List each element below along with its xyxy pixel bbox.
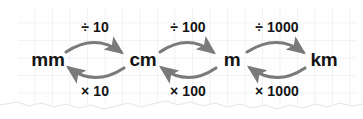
arrow-m-to-km-divide xyxy=(247,43,303,53)
multiply-label-km-m: × 1000 xyxy=(255,83,299,99)
divide-label-m-km: ÷ 1000 xyxy=(255,19,298,35)
arrow-mm-to-cm-divide xyxy=(66,43,121,53)
multiply-label-cm-mm: × 10 xyxy=(81,83,109,99)
arrow-cm-to-mm-multiply xyxy=(69,68,124,78)
arrow-m-to-cm-multiply xyxy=(162,68,216,78)
unit-label-mm: mm xyxy=(31,49,64,71)
unit-label-cm: cm xyxy=(129,49,156,71)
divide-label-cm-m: ÷ 100 xyxy=(170,19,205,35)
arrow-km-to-m-multiply xyxy=(250,68,305,78)
metric-conversion-diagram: mm cm m km ÷ 10 × 10 ÷ 100 × 100 ÷ 1000 … xyxy=(0,0,363,119)
divide-label-mm-cm: ÷ 10 xyxy=(81,19,109,35)
arrow-cm-to-m-divide xyxy=(160,43,213,53)
unit-label-km: km xyxy=(310,49,337,71)
unit-label-m: m xyxy=(224,49,241,71)
multiply-label-m-cm: × 100 xyxy=(170,83,206,99)
